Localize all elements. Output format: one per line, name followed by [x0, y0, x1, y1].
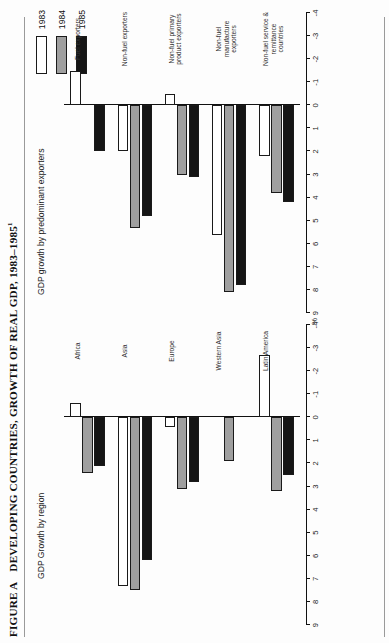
- axis-tick: [306, 104, 310, 105]
- category-label: Latin America: [262, 323, 269, 379]
- axis-tick-label: 8: [311, 593, 320, 611]
- bar: [94, 417, 104, 465]
- figure-body: FIGURE ADEVELOPING COUNTRIES, GROWTH OF …: [0, 0, 389, 643]
- bar: [259, 105, 269, 156]
- axis-tick: [306, 624, 310, 625]
- figure-title: DEVELOPING COUNTRIES, GROWTH OF REAL GDP…: [7, 226, 19, 572]
- category-label: Western Asia: [215, 323, 222, 379]
- axis-tick: [306, 416, 310, 417]
- footnote-marker: 1: [6, 222, 14, 226]
- axis-tick-label: 9: [311, 616, 320, 634]
- category-label: Europe: [168, 323, 175, 379]
- axis-tick: [306, 370, 310, 371]
- axis-tick: [306, 266, 310, 267]
- bar: [118, 105, 128, 151]
- category-label: Non-fuel primary product exporters: [168, 11, 183, 67]
- axis-tick: [306, 555, 310, 556]
- figure-page: FIGURE ADEVELOPING COUNTRIES, GROWTH OF …: [0, 0, 389, 643]
- bar: [283, 417, 293, 475]
- axis-tick-label: -2: [311, 50, 320, 68]
- axis-tick: [306, 35, 310, 36]
- axis-tick: [306, 486, 310, 487]
- axis-tick-label: -3: [311, 339, 320, 357]
- axis-tick-label: 6: [311, 547, 320, 565]
- axis-tick-label: 2: [311, 142, 320, 160]
- panel-right-title: GDP growth by predominant exporters: [36, 0, 46, 295]
- bar: [70, 403, 80, 417]
- axis-tick-label: 0: [311, 96, 320, 114]
- figure-number: FIGURE A: [7, 582, 19, 637]
- axis-tick-label: -1: [311, 385, 320, 403]
- axis-tick-label: 8: [311, 281, 320, 299]
- panel-by-region: GDP Growth by region AfricaAsiaEuropeWes…: [34, 325, 378, 625]
- caption-rule-top: [24, 17, 25, 637]
- axis-tick: [306, 289, 310, 290]
- axis-tick: [306, 220, 310, 221]
- axis-tick: [306, 127, 310, 128]
- category-label: Non-fuel manufacture exporters: [215, 11, 237, 67]
- axis-tick: [306, 462, 310, 463]
- bar: [142, 105, 152, 216]
- axis-tick-label: 7: [311, 570, 320, 588]
- bar: [271, 105, 281, 193]
- axis-tick-label: -3: [311, 27, 320, 45]
- axis-tick-label: -4: [311, 4, 320, 22]
- axis-tick-label: -1: [311, 73, 320, 91]
- axis-tick-label: 2: [311, 454, 320, 472]
- axis-tick: [306, 243, 310, 244]
- axis-tick: [306, 312, 310, 313]
- axis-tick-label: 5: [311, 524, 320, 542]
- bar: [224, 105, 234, 292]
- axis-tick-label: 1: [311, 119, 320, 137]
- axis-tick: [306, 532, 310, 533]
- axis-tick-label: 5: [311, 212, 320, 230]
- bar: [165, 94, 175, 106]
- bar: [224, 417, 234, 461]
- bar: [118, 417, 128, 585]
- panel-left-title: GDP Growth by region: [36, 279, 46, 579]
- axis-tick-label: -2: [311, 362, 320, 380]
- axis-tick-label: 0: [311, 408, 320, 426]
- axis-tick: [306, 578, 310, 579]
- caption-rule-bottom: [384, 17, 385, 637]
- axis-tick-label: 4: [311, 501, 320, 519]
- axis-tick: [306, 197, 310, 198]
- figure-caption: FIGURE ADEVELOPING COUNTRIES, GROWTH OF …: [6, 17, 19, 637]
- axis-tick: [306, 509, 310, 510]
- axis-tick-label: 3: [311, 166, 320, 184]
- category-label: Asia: [121, 323, 128, 379]
- category-label: Fuel exporters: [74, 11, 81, 67]
- category-label: Africa: [74, 323, 81, 379]
- axis-tick: [306, 347, 310, 348]
- axis-tick-label: 6: [311, 235, 320, 253]
- axis-tick: [306, 393, 310, 394]
- bar: [70, 71, 80, 106]
- axis-tick-label: 9: [311, 304, 320, 322]
- panel-by-exporters: GDP growth by predominant exporters % Fu…: [34, 13, 378, 313]
- bar: [236, 105, 246, 285]
- axis-tick: [306, 150, 310, 151]
- plot-area-by-exporters: Fuel exportersNon-fuel exportersNon-fuel…: [64, 13, 300, 313]
- bar: [271, 417, 281, 491]
- bar: [94, 105, 104, 151]
- axis-tick: [306, 601, 310, 602]
- bar: [189, 417, 199, 482]
- rotated-figure-wrapper: FIGURE ADEVELOPING COUNTRIES, GROWTH OF …: [0, 0, 389, 643]
- bar: [189, 105, 199, 177]
- bar: [142, 417, 152, 560]
- axis-tick: [306, 58, 310, 59]
- axis-tick-label: 7: [311, 258, 320, 276]
- bar: [283, 105, 293, 202]
- axis-tick: [306, 12, 310, 13]
- axis-tick-label: 1: [311, 431, 320, 449]
- axis-tick: [306, 174, 310, 175]
- bar: [130, 105, 140, 227]
- plot-area-by-region: AfricaAsiaEuropeWestern AsiaLatin Americ…: [64, 325, 300, 625]
- axis-tick: [306, 439, 310, 440]
- axis-tick: [306, 81, 310, 82]
- category-label: Non-fuel exporters: [121, 11, 128, 67]
- axis-tick-label: 3: [311, 478, 320, 496]
- bar: [82, 417, 92, 472]
- bar: [212, 105, 222, 234]
- category-label: Non-fuel service & remittance countries: [262, 11, 284, 67]
